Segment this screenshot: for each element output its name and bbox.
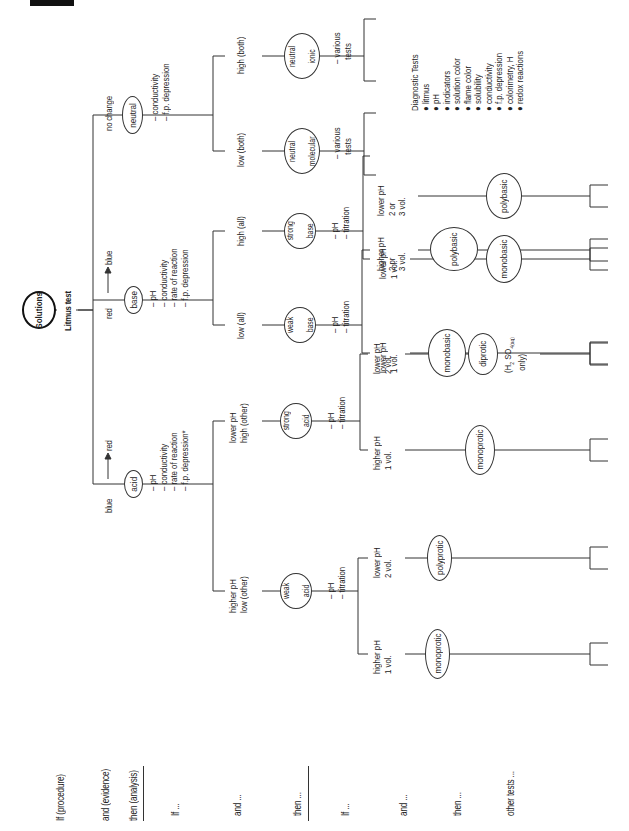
strong-base-tests: – pH– titration bbox=[330, 200, 351, 239]
neutral-molecular-tests: – various tests bbox=[332, 120, 353, 159]
neutral-ionic-node: neutralionic bbox=[284, 33, 320, 79]
weak-acid-node: weakacid bbox=[280, 573, 312, 609]
row-label-then-analysis: then (analysis) bbox=[128, 770, 139, 821]
row-label-then-1: then ... bbox=[292, 792, 303, 816]
strong-base-condition: high (all) bbox=[236, 210, 247, 246]
polybasic-node: polybasic bbox=[486, 173, 522, 219]
monoprotic-node: monoprotic bbox=[425, 629, 450, 679]
l3-condition-2: higher pH1 vol. bbox=[372, 429, 393, 470]
row-label-and-evidence: and (evidence) bbox=[100, 769, 111, 821]
connector-lines bbox=[0, 0, 629, 831]
neutral-evidence: no change bbox=[103, 96, 114, 131]
row-label-if-2: If ... bbox=[340, 803, 351, 816]
l3-condition-4: lower pH1 vol. bbox=[378, 336, 399, 374]
base-evidence-to: blue bbox=[103, 251, 114, 265]
strong-acid-tests: – pH– titration bbox=[326, 390, 347, 429]
neutral-molecular-node: neutralmolecular bbox=[284, 128, 320, 174]
polyprotic-node: polyprotic bbox=[427, 535, 452, 581]
monobasic-node: monobasic bbox=[486, 235, 522, 283]
diprotic-node: diprotic bbox=[468, 333, 498, 375]
weak-base-condition: low (all) bbox=[236, 306, 247, 339]
neutral-node: neutral bbox=[122, 96, 143, 134]
row-label-and-1: and ... bbox=[232, 794, 243, 816]
row-label-then-2: then ... bbox=[452, 792, 463, 816]
weak-base-tests: – pH– titration bbox=[330, 294, 351, 333]
l3-condition-0: higher pH1 vol. bbox=[372, 633, 393, 674]
base-node: base bbox=[124, 286, 143, 314]
neutral-ionic-condition: high (both) bbox=[236, 29, 247, 74]
row-label-and-2: and ... bbox=[398, 794, 409, 816]
row-label-other-tests: other tests ... bbox=[505, 771, 516, 816]
base-evidence-from: red bbox=[103, 308, 114, 319]
monoprotic-node: monoprotic bbox=[465, 425, 495, 475]
monobasic-node: monobasic bbox=[428, 329, 466, 377]
row-label-if-procedure: If (procedure) bbox=[55, 774, 66, 821]
polybasic-node: polybasic bbox=[430, 227, 478, 271]
solutions-node: Solutions bbox=[22, 291, 56, 329]
neutral-tests: – conductivity – f.p. depression bbox=[150, 51, 171, 121]
l3-condition-6: lower pH1 vol. bbox=[378, 242, 399, 280]
solutions-label: Solutions bbox=[34, 292, 44, 329]
diprotic-note: (H2 SO4(aq) only) bbox=[503, 329, 528, 373]
row-divider bbox=[143, 766, 144, 821]
acid-evidence-to: red bbox=[103, 440, 114, 451]
acid-node: acid bbox=[124, 470, 143, 498]
weak-acid-tests: – pH– titration bbox=[326, 560, 347, 599]
flowchart-frame: Solutions Litmus test If (procedure) and… bbox=[0, 0, 629, 831]
strong-acid-node: strongacid bbox=[280, 403, 312, 439]
neutral-ionic-tests: – various tests bbox=[332, 25, 353, 64]
neutral-molecular-condition: low (both) bbox=[236, 125, 247, 167]
strong-acid-condition: lower pHhigh (other) bbox=[228, 394, 249, 443]
row-divider bbox=[308, 766, 309, 821]
weak-acid-condition: higher pHlow (other) bbox=[228, 568, 249, 613]
base-tests: – pH – conductivity – rate of reaction –… bbox=[148, 236, 190, 307]
acid-tests: – pH – conductivity – rate of reaction –… bbox=[148, 417, 190, 491]
l3-condition-7: lower pH2 or3 vol. bbox=[376, 179, 408, 217]
weak-base-node: weakbase bbox=[284, 307, 316, 343]
row-label-if-1: If ... bbox=[170, 803, 181, 816]
l3-condition-1: lower pH2 vol. bbox=[372, 541, 393, 579]
acid-evidence-from: blue bbox=[103, 499, 114, 513]
litmus-test-label: Litmus test bbox=[62, 270, 73, 352]
diagnostic-tests-list: Diagnostic Tests ● litmus ● pH ● indicat… bbox=[410, 38, 526, 111]
strong-base-node: strongbase bbox=[284, 213, 316, 249]
